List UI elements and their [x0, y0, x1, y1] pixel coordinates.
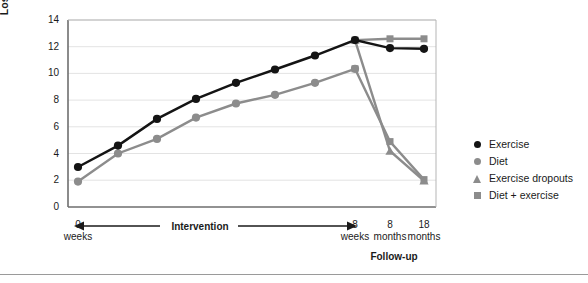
x-tick-18-months-unit: months [394, 231, 454, 243]
y-tick-0: 0 [33, 202, 59, 212]
x-tick-0-weeks: 0 weeks [48, 219, 108, 243]
plot-frame [68, 20, 436, 207]
x-tick-0-weeks-unit: weeks [48, 231, 108, 243]
x-tick-18-months-value: 18 [394, 219, 454, 231]
legend-label-exercise: Exercise [489, 139, 529, 150]
series-diet [74, 65, 359, 186]
footer-divider [0, 274, 588, 275]
followup-label: Follow-up [357, 251, 431, 262]
y-tick-8: 8 [33, 95, 59, 105]
y-tick-14: 14 [33, 15, 59, 25]
intervention-label: Intervention [164, 221, 236, 232]
x-tick-0-weeks-value: 0 [48, 219, 108, 231]
series-diet-exercise-dropoff [352, 65, 428, 183]
y-tick-6: 6 [33, 122, 59, 132]
x-tick-18-months: 18 months [394, 219, 454, 243]
legend-label-diet-exercise: Diet + exercise [489, 190, 559, 201]
circle-marker-icon [470, 155, 484, 169]
square-marker-icon [470, 189, 484, 203]
legend-label-diet: Diet [489, 156, 508, 167]
chart-legend: Exercise Diet Exercise dropouts Diet + e… [470, 136, 573, 204]
y-axis-title: Loss or gain (kg) [0, 0, 10, 42]
triangle-marker-icon [470, 172, 484, 186]
circle-marker-icon [470, 138, 484, 152]
legend-item-exercise-dropouts: Exercise dropouts [470, 170, 573, 187]
y-tick-4: 4 [33, 149, 59, 159]
legend-item-diet-exercise: Diet + exercise [470, 187, 573, 204]
y-tick-12: 12 [33, 42, 59, 52]
y-tick-10: 10 [33, 68, 59, 78]
legend-label-exercise-dropouts: Exercise dropouts [489, 173, 573, 184]
legend-item-diet: Diet [470, 153, 573, 170]
series-exercise-dropouts [350, 36, 428, 185]
legend-item-exercise: Exercise [470, 136, 573, 153]
y-tick-2: 2 [33, 175, 59, 185]
